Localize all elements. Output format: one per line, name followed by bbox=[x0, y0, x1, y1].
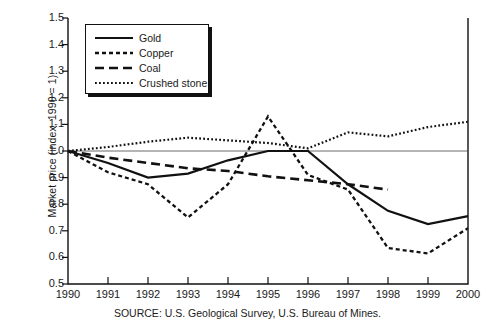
legend-label: Coal bbox=[135, 62, 161, 74]
plot-area bbox=[0, 0, 495, 328]
legend-item-coal[interactable]: Coal bbox=[86, 60, 208, 75]
legend-item-gold[interactable]: Gold bbox=[86, 30, 208, 45]
legend-swatch-copper-icon bbox=[93, 47, 135, 59]
legend-label: Copper bbox=[135, 47, 173, 59]
series-line-copper bbox=[68, 116, 468, 253]
legend-swatch-coal-icon bbox=[93, 62, 135, 74]
legend-swatch-crushed-stone-icon bbox=[93, 77, 135, 89]
data-series-group bbox=[68, 116, 468, 253]
legend-swatch-gold-icon bbox=[93, 32, 135, 44]
legend-item-crushed-stone[interactable]: Crushed stone bbox=[86, 75, 208, 90]
legend-item-copper[interactable]: Copper bbox=[86, 45, 208, 60]
series-line-crushed-stone bbox=[68, 122, 468, 151]
legend-label: Gold bbox=[135, 32, 161, 44]
series-line-gold bbox=[68, 151, 468, 224]
chart-figure: Market price (index, 1990 = 1) 0.50.60.7… bbox=[0, 0, 495, 328]
source-caption: SOURCE: U.S. Geological Survey, U.S. Bur… bbox=[0, 307, 495, 319]
chart-legend: GoldCopperCoalCrushed stone bbox=[85, 24, 209, 94]
legend-label: Crushed stone bbox=[135, 77, 207, 89]
